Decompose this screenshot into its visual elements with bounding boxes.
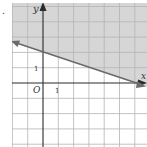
plot-area	[11, 2, 147, 147]
x-tick-label: 1	[55, 87, 59, 95]
x-axis-label: x	[141, 71, 146, 81]
inequality-graph: .	[0, 0, 147, 147]
y-axis-label: y	[32, 3, 39, 14]
problem-marker: .	[2, 6, 5, 16]
y-tick-label: 1	[34, 65, 38, 73]
origin-label: O	[33, 85, 41, 95]
